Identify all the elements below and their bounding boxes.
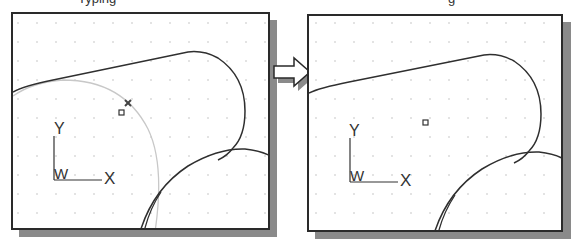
caption-right: g: [448, 0, 455, 6]
ucs-y-label: Y: [349, 122, 360, 139]
grid-dots: [309, 16, 563, 232]
ucs-w-label: W: [54, 165, 69, 182]
ucs-w-label: W: [350, 167, 365, 184]
grid-dots: [13, 14, 270, 230]
right-drawing-canvas: Y W X: [309, 16, 563, 232]
right-panel-after: Y W X: [307, 14, 563, 232]
ucs-y-label: Y: [54, 120, 65, 137]
ucs-x-label: X: [104, 169, 115, 188]
left-panel-before: Y W X: [11, 12, 270, 230]
ucs-x-label: X: [400, 171, 411, 190]
caption-left: Typing: [78, 0, 116, 6]
left-drawing-canvas: Y W X: [13, 14, 270, 230]
